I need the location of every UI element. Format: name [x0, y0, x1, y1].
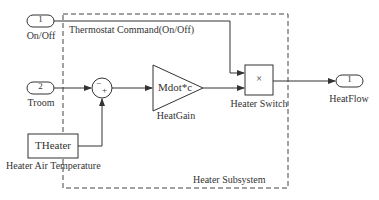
product-label: Heater Switch [231, 98, 288, 109]
constant-label: Heater Air Temperature [6, 160, 101, 171]
wire-theater-to-sum [78, 99, 102, 146]
inport-2-number: 2 [27, 81, 54, 91]
inport-1-number: 1 [27, 14, 54, 24]
inport-2-label: Troom [28, 97, 55, 108]
subsystem-label: Heater Subsystem [193, 174, 266, 185]
sum-plus-sign: + [102, 85, 107, 95]
outport-1-label: HeatFlow [329, 93, 368, 104]
constant-value: THeater [28, 139, 78, 151]
gain-value: Mdot*c [155, 81, 195, 93]
outport-1-number: 1 [336, 74, 363, 84]
product-symbol: × [245, 73, 273, 84]
gain-label: HeatGain [157, 110, 195, 121]
inport-1-label: On/Off [27, 30, 56, 41]
sum-minus-sign: − [96, 78, 101, 88]
thermostat-signal-label: Thermostat Command(On/Off) [69, 24, 194, 35]
